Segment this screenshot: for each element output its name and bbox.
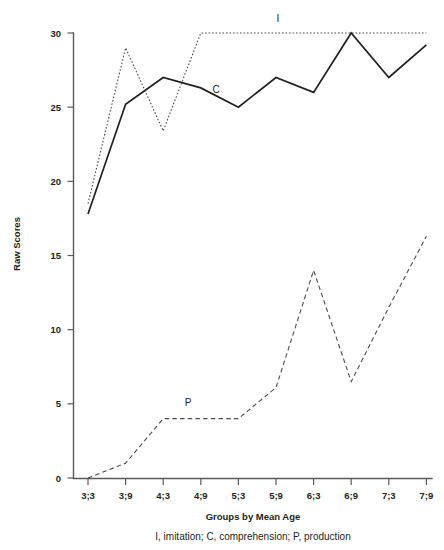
y-axis-group: 051015202530 Raw Scores xyxy=(11,28,74,484)
x-axis-title: Groups by Mean Age xyxy=(206,511,301,522)
x-axis-tick-labels: 3;33;94;34;95;35;96;36;97;37;9 xyxy=(81,490,433,501)
y-axis-tick-labels: 051015202530 xyxy=(50,28,61,484)
x-axis-ticks xyxy=(88,479,426,486)
raw-scores-line-chart: 051015202530 Raw Scores 3;33;94;34;95;35… xyxy=(0,0,444,550)
x-tick-label: 6;9 xyxy=(344,490,358,501)
x-tick-label: 5;9 xyxy=(269,490,283,501)
series-label-production: P xyxy=(185,397,192,408)
x-tick-label: 7;3 xyxy=(382,490,396,501)
y-tick-label: 20 xyxy=(50,176,61,187)
x-tick-label: 4;9 xyxy=(194,490,208,501)
figure-container: 051015202530 Raw Scores 3;33;94;34;95;35… xyxy=(0,0,444,550)
series-line-imitation xyxy=(88,33,426,204)
y-tick-label: 0 xyxy=(56,473,61,484)
series-label-imitation: I xyxy=(277,13,280,24)
series-line-production xyxy=(88,236,426,478)
x-tick-label: 7;9 xyxy=(420,490,434,501)
series-labels-group: I C P xyxy=(185,13,280,408)
x-tick-label: 6;3 xyxy=(307,490,321,501)
y-tick-label: 15 xyxy=(50,250,61,261)
y-tick-label: 30 xyxy=(50,28,61,39)
y-axis-title: Raw Scores xyxy=(11,217,22,271)
x-tick-label: 5;3 xyxy=(232,490,246,501)
series-line-comprehension xyxy=(88,33,426,214)
series-group xyxy=(88,33,426,478)
x-axis-group: 3;33;94;34;95;35;96;36;97;37;9 Groups by… xyxy=(74,479,434,523)
x-tick-label: 3;3 xyxy=(81,490,95,501)
y-tick-label: 25 xyxy=(50,102,61,113)
y-axis-ticks xyxy=(68,33,74,478)
y-tick-label: 10 xyxy=(50,324,61,335)
figure-caption: I, imitation; C, comprehension; P, produ… xyxy=(155,531,350,542)
x-tick-label: 4;3 xyxy=(156,490,170,501)
x-tick-label: 3;9 xyxy=(119,490,133,501)
y-tick-label: 5 xyxy=(56,398,62,409)
series-label-comprehension: C xyxy=(212,84,219,95)
